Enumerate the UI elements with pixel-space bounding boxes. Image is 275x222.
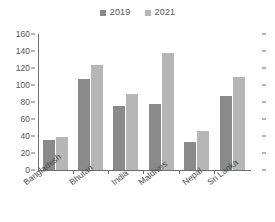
bar-sri-lanka-2021[interactable] [233,77,245,170]
legend-label-2019: 2019 [110,8,131,17]
bar-group-india[interactable] [108,34,143,170]
y-axis-labels: 0 20 40 60 80 100 120 140 160 [0,0,30,222]
legend-item-2019[interactable]: 2019 [100,8,131,17]
y-tick-mark [262,102,266,103]
y-tick-mark [31,119,35,120]
bar-india-2019[interactable] [113,106,125,170]
y-tick-mark [262,85,266,86]
bar-nepal-2021[interactable] [197,131,209,170]
bar-group-bangladesh[interactable] [38,34,73,170]
y-tick-mark [31,153,35,154]
y-tick-mark [262,68,266,69]
y-tick-label-160: 160 [16,30,30,39]
bar-group-maldives[interactable] [144,34,179,170]
y-tick-label-20: 20 [21,149,30,158]
y-tick-mark [262,51,266,52]
bar-group-bhutan[interactable] [73,34,108,170]
square-swatch-icon [145,10,151,16]
y-tick-label-100: 100 [16,81,30,90]
bar-india-2021[interactable] [126,94,138,171]
y-tick-mark [31,136,35,137]
y-tick-mark [31,51,35,52]
x-tick-mark [179,170,180,174]
y-tick-label-60: 60 [21,115,30,124]
y-tick-label-40: 40 [21,132,30,141]
y-tick-mark [31,85,35,86]
plot-area [38,34,250,170]
y-tick-mark [31,102,35,103]
x-label-india: India [110,169,130,187]
y-tick-label-140: 140 [16,47,30,56]
y-tick-mark [262,170,266,171]
square-swatch-icon [100,10,106,16]
y-tick-mark [262,136,266,137]
legend-label-2021: 2021 [155,8,176,17]
bar-group-nepal[interactable] [179,34,214,170]
legend-item-2021[interactable]: 2021 [145,8,176,17]
bar-maldives-2021[interactable] [162,53,174,170]
chart-legend: 2019 2021 [0,8,275,17]
y-tick-mark [262,153,266,154]
x-tick-mark [108,170,109,174]
y-tick-mark [262,119,266,120]
bar-group-sri-lanka[interactable] [215,34,250,170]
y-tick-label-80: 80 [21,98,30,107]
y-tick-mark [262,34,266,35]
y-tick-label-120: 120 [16,64,30,73]
bar-chart: 2019 2021 0 20 40 60 80 100 120 140 160 [0,0,275,222]
y-tick-mark [31,68,35,69]
bar-bhutan-2019[interactable] [78,79,90,170]
y-tick-mark [31,34,35,35]
bar-bhutan-2021[interactable] [91,65,103,170]
bar-nepal-2019[interactable] [184,142,196,170]
